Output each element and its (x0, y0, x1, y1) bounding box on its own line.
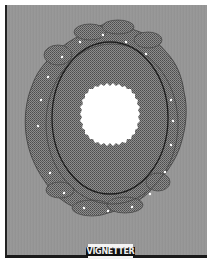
vignetter-label: VIGNETTER (88, 244, 133, 259)
vignetter-mask-illustration (0, 0, 214, 280)
vignetter-label-text: VIGNETTER (86, 247, 136, 256)
serrated-opening (80, 83, 140, 146)
